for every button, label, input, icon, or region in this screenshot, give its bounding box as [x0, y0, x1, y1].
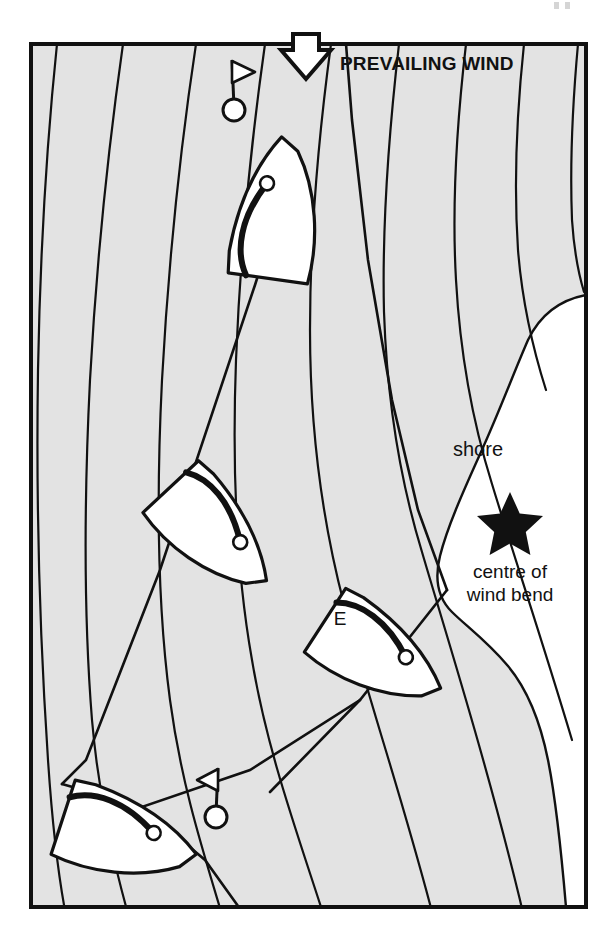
shore-label: shore — [453, 438, 503, 460]
diagram-canvas: E shore centre of wind bend PREVAILING W… — [0, 0, 608, 935]
sailing-diagram-figure: E shore centre of wind bend PREVAILING W… — [0, 0, 608, 935]
centre-of-wind-bend-line2: wind bend — [466, 584, 554, 605]
buoy-circle — [205, 806, 227, 828]
boat-mast — [259, 175, 275, 191]
buoy-circle — [223, 99, 245, 121]
centre-of-wind-bend-line1: centre of — [473, 561, 548, 582]
prevailing-wind-label: PREVAILING WIND — [340, 53, 514, 74]
boat-letter-label: E — [334, 608, 347, 629]
scan-artifact — [554, 2, 570, 9]
